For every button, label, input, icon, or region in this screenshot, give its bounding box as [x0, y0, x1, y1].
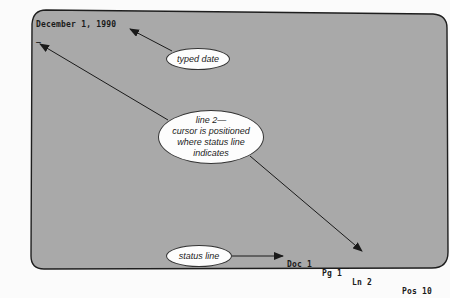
typed-date-text: December 1, 1990	[36, 20, 116, 29]
callout-typed-date: typed date	[166, 48, 230, 70]
callout-line2-a: line 2—	[196, 115, 227, 126]
status-position: Pos 10	[402, 287, 432, 296]
callout-typed-date-label: typed date	[177, 54, 219, 65]
status-page: Pg 1	[322, 269, 342, 278]
callout-line2: line 2— cursor is positioned where statu…	[158, 110, 264, 164]
callout-line2-d: indicates	[193, 148, 229, 159]
text-cursor: _	[36, 34, 41, 43]
status-doc: Doc 1	[287, 260, 312, 269]
callout-line2-b: cursor is positioned	[172, 126, 250, 137]
callout-status-line: status line	[166, 245, 232, 267]
status-line-number: Ln 2	[352, 278, 372, 287]
callout-status-line-label: status line	[179, 251, 220, 262]
callout-line2-c: where status line	[177, 137, 245, 148]
